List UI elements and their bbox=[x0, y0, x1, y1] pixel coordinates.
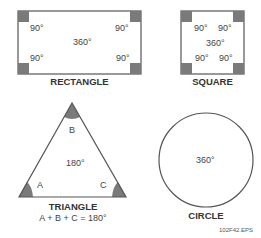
geometry-diagram: 90° 90° 90° 90° 360° RECTANGLE 90° 90° 9… bbox=[0, 0, 261, 238]
square-corner-tr bbox=[233, 11, 244, 22]
square-corner-bl bbox=[181, 63, 192, 74]
rectangle-corner-tr bbox=[130, 11, 141, 22]
rectangle-angle-br: 90° bbox=[116, 53, 130, 63]
square-angle-br: 90° bbox=[219, 53, 233, 63]
triangle-label-b: B bbox=[69, 125, 75, 135]
triangle-total: 180° bbox=[66, 158, 85, 168]
triangle-label-c: C bbox=[100, 180, 107, 190]
square-angle-bl: 90° bbox=[195, 53, 209, 63]
triangle-angle-b-wedge bbox=[64, 103, 80, 119]
square-total: 360° bbox=[206, 38, 225, 48]
circle-total: 360° bbox=[196, 155, 215, 165]
square-shape: 90° 90° 90° 90° 360° SQUARE bbox=[181, 11, 244, 87]
figure-id: 102F42.EPS bbox=[219, 227, 253, 233]
square-corner-tl bbox=[181, 11, 192, 22]
triangle-title: TRIANGLE bbox=[49, 201, 98, 212]
rectangle-title: RECTANGLE bbox=[50, 76, 108, 87]
square-corner-br bbox=[233, 63, 244, 74]
rectangle-corner-br bbox=[130, 63, 141, 74]
rectangle-shape: 90° 90° 90° 90° 360° RECTANGLE bbox=[18, 11, 141, 87]
circle-title: CIRCLE bbox=[188, 210, 223, 221]
triangle-formula: A + B + C = 180° bbox=[39, 213, 107, 223]
rectangle-angle-tl: 90° bbox=[30, 23, 44, 33]
rectangle-angle-tr: 90° bbox=[115, 23, 129, 33]
rectangle-corner-bl bbox=[18, 63, 29, 74]
rectangle-angle-bl: 90° bbox=[30, 53, 44, 63]
triangle-shape: B A C 180° TRIANGLE A + B + C = 180° bbox=[19, 103, 126, 223]
rectangle-total: 360° bbox=[73, 37, 92, 47]
rectangle-corner-tl bbox=[18, 11, 29, 22]
square-angle-tl: 90° bbox=[194, 23, 208, 33]
circle-shape: 360° CIRCLE bbox=[159, 113, 253, 221]
square-angle-tr: 90° bbox=[218, 23, 232, 33]
triangle-label-a: A bbox=[37, 180, 43, 190]
square-title: SQUARE bbox=[192, 76, 233, 87]
